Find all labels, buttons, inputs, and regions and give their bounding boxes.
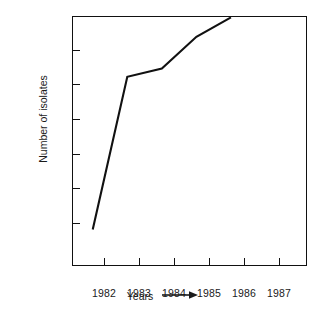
y-tick-9500	[73, 50, 80, 51]
arrow-right-icon	[162, 290, 198, 302]
y-tick-8500	[73, 84, 80, 85]
x-tick-1982	[104, 258, 105, 265]
y-tick-6500	[73, 154, 80, 155]
y-axis-title: Number of isolates	[37, 64, 49, 174]
x-axis-title-text: Years	[127, 290, 153, 302]
x-tick-1984	[174, 258, 175, 265]
x-tick-1987	[279, 258, 280, 265]
x-tick-1986	[244, 258, 245, 265]
x-axis-title: Years	[0, 289, 325, 302]
y-tick-5500	[73, 188, 80, 189]
x-tick-1983	[139, 258, 140, 265]
y-tick-7500	[73, 119, 80, 120]
chart-figure: Number of isolates 10,500 9500 8500 7500…	[0, 0, 325, 310]
x-tick-1985	[209, 258, 210, 265]
y-tick-4500	[73, 223, 80, 224]
plot-area: 10,500 9500 8500 7500 6500 5500 4500 198…	[72, 16, 307, 266]
